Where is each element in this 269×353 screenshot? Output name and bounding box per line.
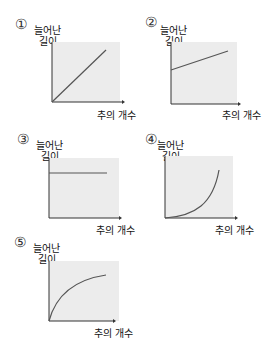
axes-and-curve: [49, 158, 124, 220]
graph-option-3: ③ 늘어난길이 추의 개수: [8, 128, 138, 243]
x-axis-label: 추의 개수: [215, 222, 254, 237]
x-axis-label: 추의 개수: [97, 107, 136, 122]
graph-option-5: ⑤ 늘어난길이 추의 개수: [8, 233, 138, 348]
option-number: ⑤: [14, 234, 27, 250]
option-number: ③: [17, 131, 30, 147]
axes-and-curve: [52, 42, 124, 104]
x-axis-label: 추의 개수: [222, 107, 261, 122]
axes-and-curve: [49, 261, 124, 323]
graph-option-1: ① 늘어난길이 추의 개수: [8, 8, 138, 123]
graph-option-4: ④ 늘어난길이 추의 개수: [137, 128, 267, 243]
option-number: ②: [145, 14, 158, 30]
graph-option-2: ② 늘어난길이 추의 개수: [137, 8, 267, 123]
x-axis-label: 추의 개수: [94, 325, 133, 340]
option-number: ①: [15, 16, 28, 32]
axes-and-curve: [165, 156, 240, 220]
axes-and-curve: [171, 42, 243, 106]
